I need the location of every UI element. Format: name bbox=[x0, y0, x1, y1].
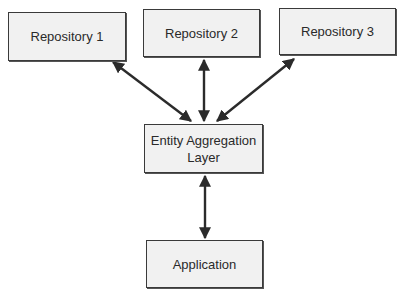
arrow-repo1-eal bbox=[113, 62, 191, 121]
node-label: Repository 2 bbox=[165, 25, 238, 42]
node-label-line2: Layer bbox=[187, 149, 220, 166]
node-repository-1: Repository 1 bbox=[8, 12, 126, 61]
node-label: Repository 1 bbox=[31, 28, 104, 45]
node-repository-2: Repository 2 bbox=[143, 9, 260, 57]
node-repository-3: Repository 3 bbox=[279, 8, 396, 55]
node-application: Application bbox=[146, 240, 263, 288]
node-label-line1: Entity Aggregation bbox=[151, 132, 257, 149]
node-label: Application bbox=[173, 256, 237, 273]
arrow-repo3-eal bbox=[217, 59, 294, 121]
node-entity-aggregation-layer: Entity Aggregation Layer bbox=[144, 124, 263, 173]
node-label: Repository 3 bbox=[301, 23, 374, 40]
